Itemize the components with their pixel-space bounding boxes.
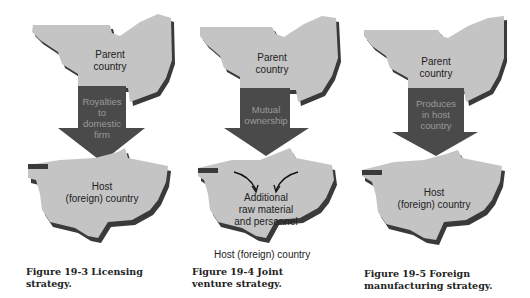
host-country-label: Host (foreign) country: [58, 181, 146, 205]
foreign-manufacturing-map-diagram: [350, 0, 526, 298]
host-country-label: Host (foreign) country: [214, 249, 310, 260]
parent-country-label: Parent country: [406, 56, 466, 80]
figure-foreign-manufacturing: Parent country Produces in host country …: [350, 0, 526, 298]
figure-caption: Figure 19-4 Joint venture strategy.: [192, 266, 342, 290]
figure-caption: Figure 19-5 Foreign manufacturing strate…: [364, 268, 530, 292]
parent-country-label: Parent country: [242, 52, 302, 76]
arrow-label: Royalties to domestic firm: [76, 96, 128, 140]
figure-joint-venture: Parent country Mutual ownership Addition…: [172, 0, 348, 298]
licensing-map-diagram: [0, 0, 176, 298]
parent-country-label: Parent country: [80, 49, 140, 73]
arrow-label: Mutual ownership: [238, 104, 294, 126]
figure-licensing: Parent country Royalties to domestic fir…: [0, 0, 176, 298]
host-inner-label: Additional raw material and personnel: [220, 192, 312, 228]
figure-caption: Figure 19-3 Licensing strategy.: [26, 266, 176, 290]
host-country-label: Host (foreign) country: [390, 187, 478, 211]
arrow-label: Produces in host country: [406, 98, 466, 131]
